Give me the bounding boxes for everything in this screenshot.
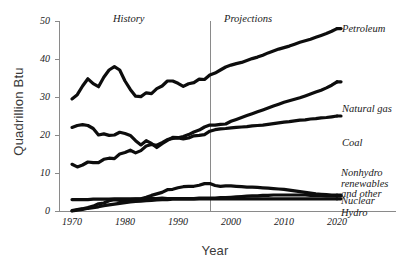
series-label-hydro: Hydro	[341, 208, 367, 219]
series-line-natural-gas	[72, 82, 337, 148]
series-label-coal: Coal	[342, 138, 362, 149]
series-line-petroleum	[72, 29, 337, 99]
series-label-petroleum: Petroleum	[342, 24, 385, 35]
series-label-natural-gas: Natural gas	[342, 104, 392, 115]
series-label-nonhydro-line1: Nonhydro	[341, 168, 388, 179]
series-plot-lines	[0, 0, 409, 271]
series-label-nuclear: Nuclear	[341, 196, 375, 207]
energy-consumption-chart: 50 40 30 20 10 0 1970 1980 1990 2000 201…	[0, 0, 409, 271]
series-line-coal	[72, 116, 337, 167]
